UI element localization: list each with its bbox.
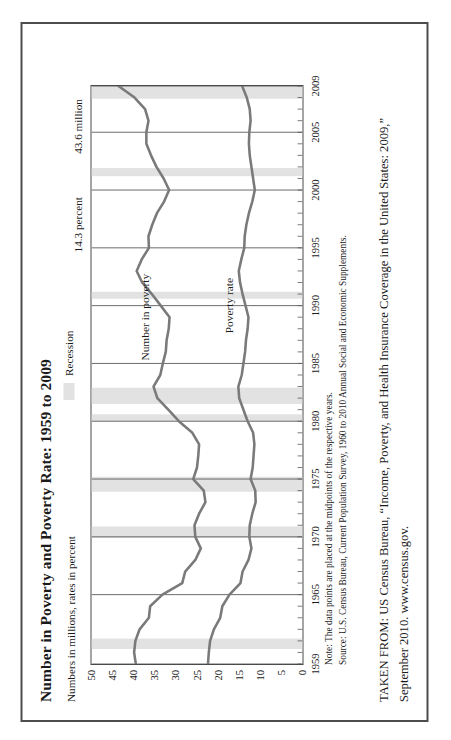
x-axis-tick-label: 1995 [309, 237, 320, 258]
page-title: Number in Poverty and Poverty Rate: 1959… [36, 359, 54, 702]
x-axis-tick-label: 2009 [309, 75, 320, 96]
x-axis-tick-label: 2005 [309, 122, 320, 143]
chart-plot-area: 0510152025303540455019591965197019751980… [90, 85, 303, 665]
y-axis-tick-label: 45 [107, 670, 118, 692]
y-axis-tick-label: 40 [128, 670, 139, 692]
x-axis-tick-label: 1980 [309, 411, 320, 432]
endpoint-callout-number-in-poverty: 43.6 million [71, 99, 83, 154]
x-axis-tick-label: 1965 [309, 584, 320, 605]
note-line: Note: The data points are placed at the … [322, 235, 336, 665]
legend-label-recession: Recession [62, 331, 74, 376]
recession-band [91, 292, 302, 299]
recession-swatch-icon [63, 383, 74, 400]
x-axis-tick-label: 2000 [309, 179, 320, 200]
figure-subtitle: Numbers in millions, rates in percent [64, 536, 76, 702]
series-label-number-in-poverty: Number in poverty [138, 274, 150, 361]
recession-band [91, 388, 302, 404]
y-axis-tick-label: 35 [149, 670, 160, 692]
figure-frame: Number in Poverty and Poverty Rate: 1959… [20, 22, 428, 722]
recession-band [91, 168, 302, 176]
y-axis-tick-label: 20 [212, 670, 223, 692]
y-axis-tick-label: 0 [297, 670, 308, 692]
chart-svg [91, 86, 302, 664]
y-axis-tick-label: 5 [275, 670, 286, 692]
endpoint-callout-poverty-rate: 14.3 percent [71, 197, 83, 252]
figure-notes: Note: The data points are placed at the … [322, 235, 349, 665]
legend: Recession [62, 331, 74, 400]
y-axis-tick-label: 10 [254, 670, 265, 692]
y-axis-tick-label: 30 [170, 670, 181, 692]
taken-from-line-1: TAKEN FROM: US Census Bureau, “Income, P… [374, 37, 394, 702]
taken-from-block: TAKEN FROM: US Census Bureau, “Income, P… [374, 37, 413, 702]
recession-band [91, 414, 302, 421]
recession-band [91, 639, 302, 649]
x-axis-tick-label: 1959 [309, 653, 320, 674]
y-axis-tick-label: 25 [191, 670, 202, 692]
x-axis-tick-label: 1985 [309, 353, 320, 374]
x-axis-tick-label: 1990 [309, 295, 320, 316]
x-axis-tick-label: 1970 [309, 526, 320, 547]
y-axis-tick-label: 50 [86, 670, 97, 692]
series-label-poverty-rate: Poverty rate [222, 278, 234, 333]
rotated-figure-wrapper: Number in Poverty and Poverty Rate: 1959… [0, 0, 451, 740]
source-line: Source: U.S. Census Bureau, Current Popu… [336, 235, 350, 665]
x-axis-tick-label: 1975 [309, 468, 320, 489]
taken-from-line-2: September 2010. www.census.gov. [394, 37, 414, 702]
y-axis-tick-label: 15 [233, 670, 244, 692]
